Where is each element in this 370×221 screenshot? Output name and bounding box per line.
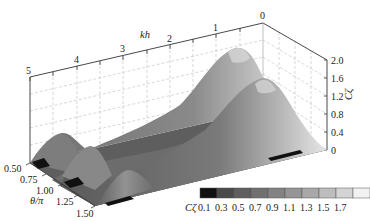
svg-text:0.9: 0.9 (266, 202, 279, 213)
z-tick-labels: 2.0 1.6 1.2 0.8 0.4 0 Cζ (331, 55, 355, 156)
colorbar-title: Cζ (185, 202, 197, 214)
svg-text:0.7: 0.7 (249, 202, 262, 213)
svg-text:0.4: 0.4 (331, 127, 344, 138)
surface-plot: 5 4 3 2 1 0 kh 2.0 1.6 1.2 0.8 0.4 0 Cζ … (0, 0, 370, 221)
svg-text:1.2: 1.2 (331, 91, 344, 102)
theta-axis-title: θ/π (30, 195, 44, 206)
svg-text:0.3: 0.3 (215, 202, 228, 213)
svg-text:0.75: 0.75 (20, 174, 38, 185)
svg-text:0.50: 0.50 (4, 163, 22, 174)
svg-text:0.5: 0.5 (232, 202, 245, 213)
kh-tick-1: 1 (213, 22, 218, 33)
svg-text:1.7: 1.7 (334, 202, 347, 213)
svg-text:0.8: 0.8 (331, 109, 344, 120)
colorbar: Cζ 0.1 0.3 0.5 0.7 0.9 1.1 1.3 1.5 1.7 (185, 188, 370, 214)
kh-tick-3: 3 (120, 43, 125, 54)
svg-text:0: 0 (331, 145, 336, 156)
svg-text:1.5: 1.5 (317, 202, 330, 213)
svg-text:0.1: 0.1 (198, 202, 211, 213)
kh-tick-5: 5 (26, 65, 31, 76)
kh-axis-title: kh (140, 29, 150, 40)
svg-text:2.0: 2.0 (331, 55, 344, 66)
svg-text:1.3: 1.3 (300, 202, 313, 213)
kh-tick-2: 2 (167, 33, 172, 44)
svg-text:1.25: 1.25 (56, 196, 74, 207)
kh-tick-0: 0 (260, 10, 265, 21)
surface (30, 48, 327, 206)
svg-text:1.1: 1.1 (283, 202, 296, 213)
svg-text:1.50: 1.50 (76, 208, 94, 219)
kh-tick-4: 4 (74, 54, 79, 65)
svg-text:1.6: 1.6 (331, 73, 344, 84)
z-axis-title: Cζ (343, 88, 355, 100)
